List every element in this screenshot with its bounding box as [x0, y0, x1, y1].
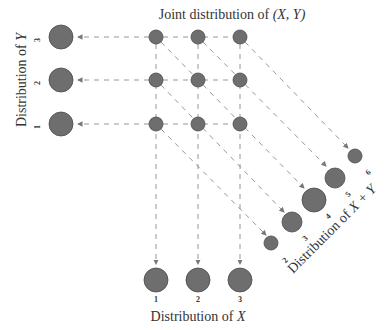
x-tick-3: 3 [238, 295, 242, 304]
y-tick-2: 2 [33, 81, 42, 85]
y-marginal-dots [49, 25, 73, 136]
sum-distribution-dots [264, 149, 362, 250]
x-tick-1: 1 [154, 295, 158, 304]
y-tick-1: 1 [33, 125, 42, 129]
y-axis-title: Distribution of Y [14, 31, 29, 127]
sum-tick-6: 6 [364, 168, 373, 177]
y-tick-3: 3 [33, 38, 42, 42]
x-axis-title: Distribution of X [151, 309, 246, 324]
x-tick-2: 2 [196, 295, 200, 304]
joint-title: Joint distribution of (X, Y) [159, 7, 306, 23]
diagram-canvas: 3 2 1 1 2 3 2 3 4 5 6 Joint distribution… [0, 0, 389, 330]
x-marginal-dots [144, 268, 252, 292]
